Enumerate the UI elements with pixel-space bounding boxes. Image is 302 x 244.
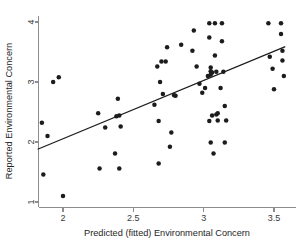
- data-point: [158, 80, 163, 85]
- x-axis-title: Predicted (fitted) Environmental Concern: [84, 228, 250, 238]
- data-point: [207, 35, 212, 40]
- plot-axes: [39, 16, 297, 208]
- data-point: [207, 21, 212, 26]
- data-point: [210, 113, 215, 118]
- data-point: [190, 49, 195, 54]
- data-point: [224, 118, 229, 123]
- data-point: [194, 64, 199, 69]
- data-point: [45, 134, 50, 139]
- data-point: [156, 119, 161, 124]
- data-point: [213, 21, 218, 26]
- data-point: [116, 97, 121, 102]
- data-point: [207, 119, 212, 124]
- data-point: [280, 49, 285, 54]
- x-tick-label: 2.5: [127, 213, 140, 223]
- y-tick-label: 2: [26, 139, 36, 144]
- x-tick-label: 2: [60, 213, 65, 223]
- data-point: [279, 21, 284, 26]
- data-point: [280, 58, 285, 63]
- data-point: [168, 145, 173, 150]
- data-point: [159, 59, 164, 64]
- plot-canvas: 1234 22.533.5 Predicted (fitted) Environ…: [0, 0, 302, 244]
- y-tick-label: 3: [26, 79, 36, 84]
- data-point: [220, 21, 225, 26]
- data-point: [61, 194, 66, 199]
- data-point: [218, 86, 223, 91]
- data-point: [161, 92, 166, 97]
- x-axis-ticks: 22.533.5: [60, 208, 280, 223]
- y-axis-ticks: 1234: [26, 19, 39, 204]
- data-point: [200, 91, 205, 96]
- data-point: [118, 124, 123, 128]
- data-point: [179, 43, 184, 48]
- data-point: [156, 161, 161, 166]
- data-point: [113, 151, 118, 156]
- data-points-layer: [40, 21, 286, 198]
- data-point: [169, 130, 174, 135]
- data-point: [215, 118, 220, 123]
- data-point: [268, 55, 273, 60]
- data-point: [173, 94, 178, 99]
- data-point: [213, 53, 218, 58]
- data-point: [266, 21, 271, 26]
- y-tick-label: 4: [26, 19, 36, 24]
- data-point: [155, 64, 160, 69]
- data-point: [215, 111, 220, 116]
- y-tick-label: 1: [26, 199, 36, 204]
- data-point: [163, 59, 168, 64]
- data-point: [223, 140, 228, 145]
- y-axis-title: Reported Environmental Concern: [4, 43, 14, 179]
- data-point: [152, 103, 157, 108]
- data-point: [203, 86, 208, 91]
- data-point: [40, 121, 45, 126]
- data-point: [223, 104, 228, 109]
- data-point: [210, 70, 215, 75]
- data-point: [103, 125, 108, 130]
- data-point: [220, 39, 225, 44]
- data-point: [165, 45, 170, 50]
- data-point: [208, 140, 213, 145]
- data-point: [117, 166, 122, 171]
- data-point: [211, 151, 216, 156]
- data-point: [96, 111, 101, 116]
- data-point: [57, 75, 62, 80]
- scatter-plot-figure: 1234 22.533.5 Predicted (fitted) Environ…: [0, 0, 302, 244]
- x-tick-label: 3: [201, 213, 206, 223]
- data-point: [272, 87, 277, 92]
- data-point: [214, 70, 219, 75]
- data-point: [282, 74, 287, 79]
- data-point: [279, 32, 284, 37]
- data-point: [192, 28, 197, 33]
- data-point: [270, 67, 275, 72]
- x-tick-label: 3.5: [268, 213, 281, 223]
- data-point: [51, 80, 56, 85]
- data-point: [97, 166, 102, 171]
- data-point: [41, 172, 46, 177]
